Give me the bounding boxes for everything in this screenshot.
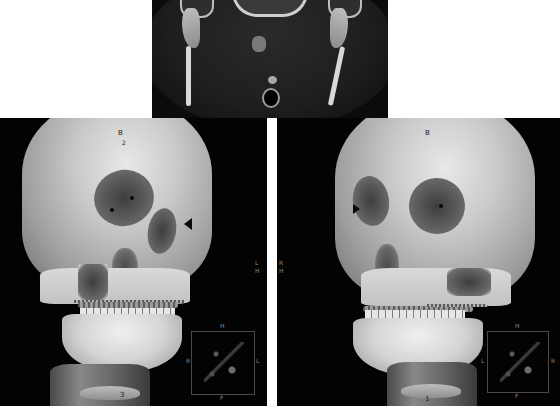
occlusal-line bbox=[78, 302, 178, 308]
cube-label-top: H bbox=[220, 323, 225, 329]
axial-ct-panel bbox=[152, 0, 388, 118]
orbit-marker bbox=[439, 204, 443, 208]
arrow-marker bbox=[353, 204, 360, 214]
maxillary-defect bbox=[78, 264, 108, 300]
ct-dens bbox=[252, 36, 266, 52]
orientation-cube bbox=[487, 331, 549, 393]
orientation-label: R bbox=[279, 260, 283, 266]
marker-label: B bbox=[118, 130, 123, 137]
orbit-marker bbox=[110, 208, 114, 212]
hyoid-bone bbox=[80, 386, 140, 400]
arrow-marker bbox=[184, 218, 192, 230]
cube-label-left: L bbox=[481, 358, 484, 364]
volume-render-right-panel: B 1 R H H L R F bbox=[277, 118, 560, 406]
marker-label: B bbox=[425, 130, 430, 137]
orientation-label: L bbox=[255, 260, 258, 266]
ct-airway bbox=[262, 88, 280, 108]
orientation-label: H bbox=[279, 268, 284, 274]
marker-label: 2 bbox=[122, 140, 126, 146]
maxilla bbox=[40, 268, 190, 304]
cube-label-right: R bbox=[551, 358, 555, 364]
cube-label-right: L bbox=[256, 358, 259, 364]
orientation-cube-glyph bbox=[204, 342, 244, 382]
ct-hyoid bbox=[268, 76, 277, 84]
ct-left-ramus-shaft bbox=[186, 46, 191, 106]
hyoid-bone bbox=[401, 384, 461, 398]
cube-label-bottom: F bbox=[515, 393, 518, 399]
cube-label-top: H bbox=[515, 323, 520, 329]
maxillary-defect bbox=[447, 268, 491, 296]
volume-render-left-panel: B 2 3 L H H R L F bbox=[0, 118, 267, 406]
marker-label: 3 bbox=[120, 392, 124, 399]
orientation-label: H bbox=[255, 268, 260, 274]
fracture-line bbox=[427, 304, 487, 307]
orientation-cube-glyph bbox=[500, 342, 540, 382]
orbit-marker bbox=[130, 196, 134, 200]
orientation-cube bbox=[191, 331, 255, 395]
cube-label-bottom: F bbox=[220, 395, 223, 401]
cube-label-left: R bbox=[186, 358, 190, 364]
marker-label: 1 bbox=[425, 396, 429, 403]
